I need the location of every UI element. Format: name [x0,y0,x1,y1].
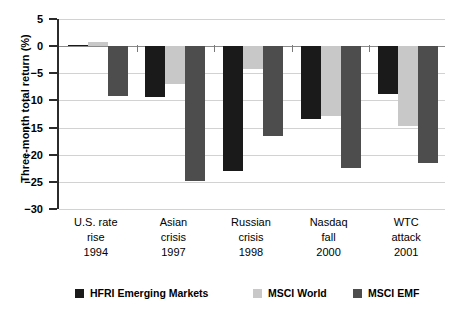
x-axis-label-line: crisis [212,230,290,245]
y-axis-tick-mark [49,45,57,47]
x-axis-label-line: 2000 [290,245,368,260]
legend-swatch-icon [253,289,262,298]
gridline [59,209,445,210]
bar-group [59,19,137,209]
legend-label: MSCI World [268,287,327,299]
bar [418,46,438,163]
x-axis-label-line: rise [57,230,135,245]
x-axis-label-line: Asian [135,215,213,230]
plot-area: 50−5−10−15−20−25−30 [57,19,445,209]
x-axis-label: Asiancrisis1997 [135,215,213,260]
y-axis-tick-mark [49,72,57,74]
x-axis-labels: U.S. raterise1994Asiancrisis1997Russianc… [57,215,445,273]
y-axis-tick-label: −25 [24,176,43,188]
y-axis-tick-label: −30 [24,203,43,215]
y-axis-tick-mark [49,154,57,156]
bar [398,46,418,126]
bar-group [214,19,292,209]
legend-item[interactable]: MSCI World [253,287,327,299]
x-axis-label-line: WTC [367,215,445,230]
bar [243,46,263,69]
x-axis-label-line: 2001 [367,245,445,260]
bar [223,46,243,171]
bar-group [369,19,447,209]
x-axis-label: U.S. raterise1994 [57,215,135,260]
legend-item[interactable]: MSCI EMF [353,287,419,299]
x-axis-label-line: 1994 [57,245,135,260]
x-axis-label-line: 1998 [212,245,290,260]
x-axis-label: Russiancrisis1998 [212,215,290,260]
bar [88,42,108,46]
legend-item[interactable]: HFRI Emerging Markets [75,287,208,299]
y-axis-tick-mark [49,181,57,183]
bar [108,46,128,96]
bar [341,46,361,168]
y-axis-tick-label: −15 [24,122,43,134]
bar [301,46,321,119]
x-axis-label-line: attack [367,230,445,245]
bar [165,46,185,83]
x-axis-label-line: 1997 [135,245,213,260]
y-axis-tick-mark [49,18,57,20]
bar-group [137,19,215,209]
bar [378,46,398,94]
bar [145,46,165,96]
bar [68,45,88,47]
x-axis-label-line: crisis [135,230,213,245]
legend-label: MSCI EMF [368,287,419,299]
legend-swatch-icon [75,289,84,298]
x-axis-label: Nasdaqfall2000 [290,215,368,260]
bar [321,46,341,115]
bar-group [292,19,370,209]
x-axis-label: WTCattack2001 [367,215,445,260]
x-axis-label-line: fall [290,230,368,245]
y-axis-tick-mark [49,99,57,101]
legend-swatch-icon [353,289,362,298]
x-axis-label-line: Russian [212,215,290,230]
legend-label: HFRI Emerging Markets [90,287,208,299]
y-axis-tick-label: −20 [24,149,43,161]
y-axis-tick-label: 5 [37,13,43,25]
y-axis-tick-mark [49,127,57,129]
bar [185,46,205,181]
y-axis-tick-label: −10 [24,94,43,106]
bar [263,46,283,136]
x-axis-label-line: U.S. rate [57,215,135,230]
x-axis-label-line: Nasdaq [290,215,368,230]
chart-legend: HFRI Emerging MarketsMSCI WorldMSCI EMF [57,283,445,303]
chart-container: Three-month total return (%) 50−5−10−15−… [0,0,468,317]
y-axis-tick-label: −5 [30,67,43,79]
y-axis-tick-mark [49,208,57,210]
y-axis-tick-label: 0 [37,40,43,52]
plot-inner: 50−5−10−15−20−25−30 [59,19,445,209]
